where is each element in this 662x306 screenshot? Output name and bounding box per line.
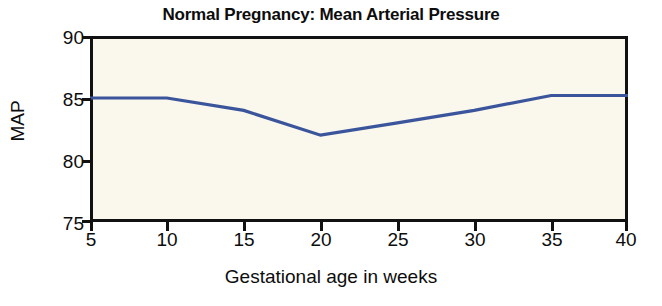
chart-figure: Normal Pregnancy: Mean Arterial Pressure… — [0, 0, 662, 306]
x-tick-label-5: 5 — [61, 230, 121, 249]
y-tick-mark-80 — [82, 160, 91, 163]
y-tick-mark-90 — [82, 36, 91, 39]
y-axis-title: MAP — [7, 86, 29, 156]
chart-title: Normal Pregnancy: Mean Arterial Pressure — [0, 5, 662, 25]
x-axis-title: Gestational age in weeks — [0, 266, 662, 288]
x-tick-label-25: 25 — [368, 230, 428, 249]
x-tick-label-15: 15 — [214, 230, 274, 249]
x-tick-label-35: 35 — [522, 230, 582, 249]
x-tick-label-40: 40 — [596, 230, 656, 249]
x-tick-label-30: 30 — [445, 230, 505, 249]
plot-line-layer — [90, 36, 628, 222]
y-tick-label-80: 80 — [38, 152, 84, 171]
data-series-line — [90, 96, 628, 136]
y-tick-mark-85 — [82, 98, 91, 101]
y-tick-label-85: 85 — [38, 90, 84, 109]
y-tick-label-90: 90 — [38, 28, 84, 47]
x-tick-label-20: 20 — [291, 230, 351, 249]
x-tick-label-10: 10 — [137, 230, 197, 249]
y-axis-tick-group: 90 85 80 75 — [24, 0, 84, 306]
